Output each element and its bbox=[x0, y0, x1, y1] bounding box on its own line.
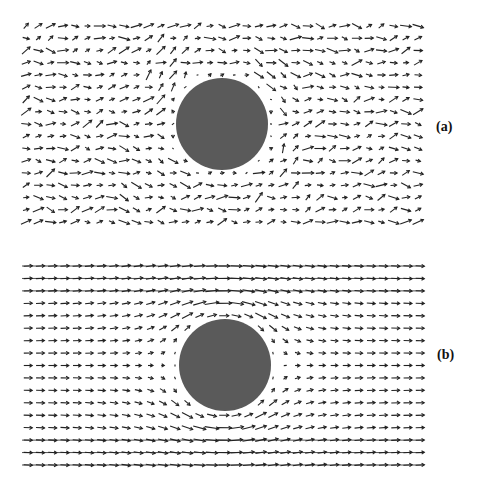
vector-arrow bbox=[280, 108, 286, 116]
vector-arrow bbox=[228, 210, 240, 211]
vector-arrow bbox=[182, 47, 189, 53]
vector-arrow bbox=[255, 59, 262, 66]
vector-arrow bbox=[119, 47, 129, 54]
vector-arrow bbox=[246, 172, 248, 173]
vector-field-figure bbox=[0, 0, 484, 487]
vector-field-b bbox=[22, 264, 424, 467]
vector-arrow bbox=[157, 95, 165, 104]
vector-arrow bbox=[255, 193, 262, 203]
obstacle-circle bbox=[176, 78, 268, 170]
vector-arrow bbox=[21, 108, 31, 115]
vector-arrow bbox=[158, 34, 164, 42]
vector-arrow bbox=[182, 313, 193, 319]
vector-arrow bbox=[23, 96, 30, 103]
vector-arrow bbox=[22, 47, 30, 54]
vector-arrow bbox=[258, 160, 260, 161]
vector-arrow bbox=[96, 121, 103, 128]
vector-arrow bbox=[413, 109, 423, 115]
vector-arrow bbox=[280, 169, 287, 177]
vector-arrow bbox=[175, 377, 176, 380]
vector-arrow bbox=[269, 325, 276, 331]
vector-arrow bbox=[267, 72, 275, 78]
vector-arrow bbox=[120, 194, 128, 201]
vector-arrow bbox=[273, 377, 274, 380]
vector-arrow bbox=[170, 59, 176, 67]
vector-arrow bbox=[169, 71, 176, 79]
vector-field-a bbox=[21, 23, 423, 225]
vector-arrow bbox=[273, 352, 274, 355]
vector-arrow bbox=[258, 86, 259, 88]
vector-arrow bbox=[182, 413, 193, 419]
vector-arrow bbox=[157, 46, 166, 54]
vector-arrow bbox=[180, 182, 190, 188]
vector-arrow bbox=[255, 313, 266, 319]
vector-arrow bbox=[172, 148, 173, 149]
panel-label-a: (a) bbox=[436, 119, 452, 135]
vector-arrow bbox=[271, 136, 272, 138]
vector-arrow bbox=[156, 109, 165, 116]
vector-arrow bbox=[279, 59, 288, 66]
vector-arrow bbox=[156, 207, 165, 214]
vector-arrow bbox=[184, 86, 186, 88]
vector-arrow bbox=[131, 182, 141, 188]
vector-arrow bbox=[71, 207, 79, 213]
vector-arrow bbox=[218, 219, 227, 226]
panel-label-b: (b) bbox=[437, 347, 454, 363]
vector-arrow bbox=[47, 169, 55, 177]
vector-arrow bbox=[83, 120, 92, 127]
vector-arrow bbox=[270, 99, 272, 100]
vector-arrow bbox=[402, 47, 410, 53]
vector-arrow bbox=[254, 72, 263, 78]
vector-arrow bbox=[175, 352, 176, 354]
vector-arrow bbox=[255, 413, 266, 419]
vector-arrow bbox=[267, 84, 276, 91]
vector-arrow bbox=[172, 123, 174, 125]
vector-arrow bbox=[388, 87, 399, 88]
obstacle-circle bbox=[179, 319, 271, 411]
vector-arrow bbox=[315, 121, 324, 127]
vector-arrow bbox=[197, 75, 199, 76]
